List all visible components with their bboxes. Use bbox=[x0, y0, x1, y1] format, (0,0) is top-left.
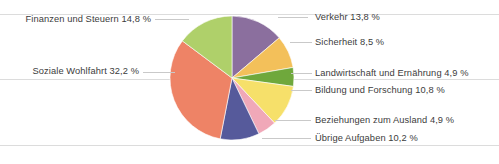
leader-line-finanzen bbox=[155, 19, 189, 20]
slice-label-bildung-und-forschung: Bildung und Forschung 10,8 % bbox=[315, 85, 445, 96]
slice-label-finanzen-und-steuern: Finanzen und Steuern 14,8 % bbox=[14, 14, 151, 25]
leader-line-sicherheit bbox=[290, 42, 312, 43]
leader-line-uebrige bbox=[262, 138, 311, 139]
slice-label-verkehr: Verkehr 13,8 % bbox=[315, 12, 380, 23]
pie-slices-group bbox=[170, 16, 294, 140]
leader-line-verkehr bbox=[278, 17, 308, 18]
pie-chart-figure: Finanzen und Steuern 14,8 % Soziale Wohl… bbox=[0, 0, 499, 164]
slice-label-sicherheit: Sicherheit 8,5 % bbox=[315, 37, 384, 48]
leader-line-landwirtschaft bbox=[291, 73, 312, 74]
slice-label-landwirtschaft-und-ernaehrung: Landwirtschaft und Ernährung 4,9 % bbox=[315, 68, 469, 79]
slice-label-soziale-wohlfahrt: Soziale Wohlfahrt 32,2 % bbox=[31, 66, 139, 77]
slice-label-uebrige-aufgaben: Übrige Aufgaben 10,2 % bbox=[315, 133, 418, 144]
leader-line-bildung bbox=[291, 90, 312, 91]
leader-line-beziehungen bbox=[275, 120, 311, 121]
leader-line-soziale bbox=[143, 72, 175, 73]
slice-label-beziehungen-zum-ausland: Beziehungen zum Ausland 4,9 % bbox=[315, 115, 454, 126]
